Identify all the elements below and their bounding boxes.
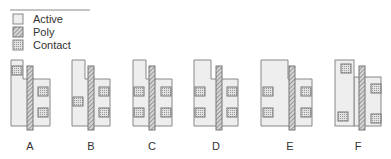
poly-gate <box>216 66 222 130</box>
layout-label-c: C <box>148 140 156 152</box>
layout-f: F <box>335 60 381 152</box>
contact-swatch-icon <box>13 40 23 50</box>
contact <box>161 87 171 96</box>
layout-label-b: B <box>87 140 94 152</box>
layout-diagram: Active Poly Contact A B C <box>0 0 391 159</box>
contact <box>301 87 311 96</box>
poly-gate <box>359 66 365 130</box>
contact <box>227 108 237 117</box>
layout-label-d: D <box>212 140 220 152</box>
contact <box>227 87 237 96</box>
poly-gate <box>27 66 33 130</box>
poly-swatch-icon <box>13 27 23 37</box>
poly-gate <box>149 66 155 130</box>
contact <box>371 84 381 93</box>
contact <box>134 87 144 96</box>
active-swatch-icon <box>13 14 23 24</box>
contact <box>263 108 273 117</box>
contact <box>73 97 83 106</box>
contact <box>263 87 273 96</box>
legend-label-poly: Poly <box>33 26 55 38</box>
contact <box>371 114 381 123</box>
contact <box>38 108 48 117</box>
legend-label-contact: Contact <box>33 39 71 51</box>
contact <box>38 87 48 96</box>
legend-label-active: Active <box>33 13 63 25</box>
layout-e: E <box>261 60 312 152</box>
contact <box>338 112 348 121</box>
contact <box>99 108 109 117</box>
contact <box>195 87 205 96</box>
layout-label-f: F <box>355 140 362 152</box>
layout-c: C <box>133 60 172 152</box>
contact <box>99 87 109 96</box>
contact <box>12 66 22 75</box>
layout-label-e: E <box>286 140 293 152</box>
layout-d: D <box>194 60 238 152</box>
contact <box>161 108 171 117</box>
layout-b: B <box>72 60 110 152</box>
contact <box>301 108 311 117</box>
contact <box>195 108 205 117</box>
legend: Active Poly Contact <box>10 10 90 51</box>
poly-gate <box>88 66 94 130</box>
layout-a: A <box>11 60 50 152</box>
poly-gate <box>289 66 295 130</box>
contact <box>341 64 351 73</box>
contact <box>134 108 144 117</box>
layout-label-a: A <box>26 140 34 152</box>
